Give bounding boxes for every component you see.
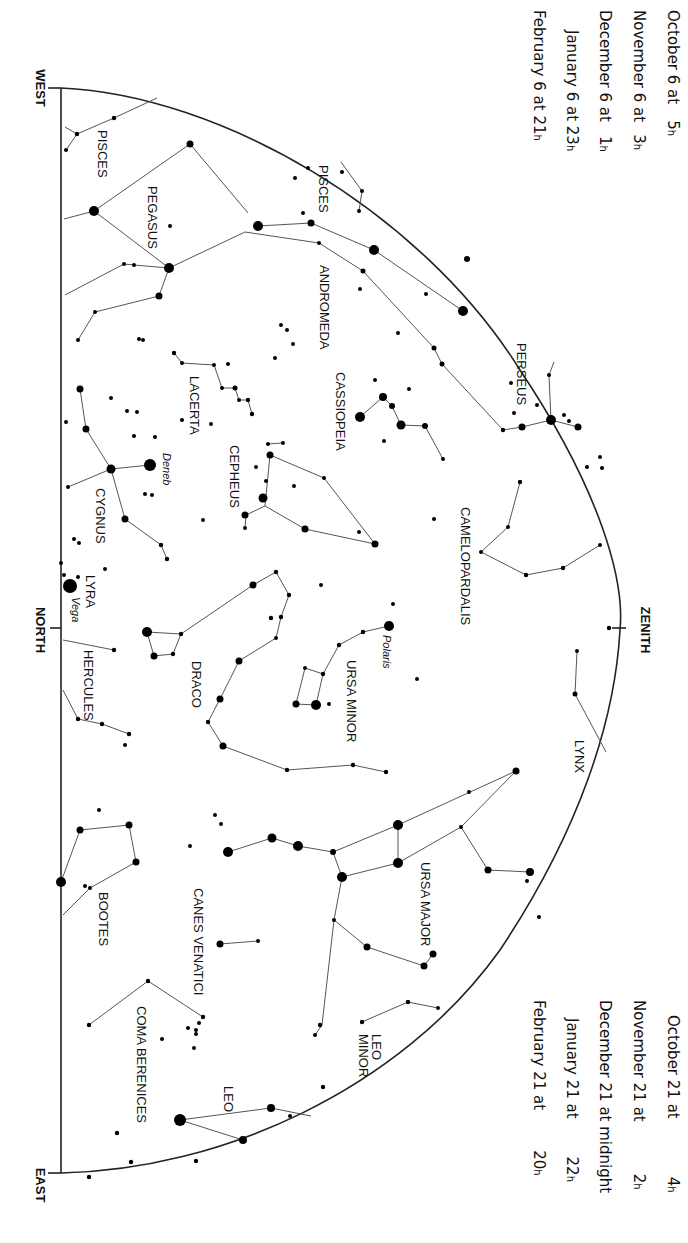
label-polaris: Polaris <box>381 635 393 669</box>
time-table-top: October 6 at5h November 6 at3h December … <box>530 10 682 152</box>
label-leo-minor-2: MINOR <box>356 1034 371 1077</box>
label-cassiopeia: CASSIOPEIA <box>333 372 348 451</box>
constellation-labels: PISCES PEGASUS PISCES ANDROMEDA PERSEUS … <box>81 130 587 1123</box>
label-draco: DRACO <box>189 661 204 708</box>
label-deneb: Deneb <box>161 453 173 485</box>
label-andromeda: ANDROMEDA <box>317 265 332 350</box>
north-label: NORTH <box>33 607 48 653</box>
constellation-lines <box>61 98 606 1140</box>
label-lacerta: LACERTA <box>187 376 202 435</box>
label-lynx: LYNX <box>572 740 587 773</box>
label-cygnus: CYGNUS <box>93 488 108 544</box>
label-lyra: LYRA <box>83 575 98 608</box>
label-camelopardalis: CAMELOPARDALIS <box>458 507 473 626</box>
time-row: December 6 at1h <box>596 10 614 152</box>
time-row: October 6 at5h <box>664 10 682 136</box>
label-ursa-major: URSA MAJOR <box>418 862 433 947</box>
zenith-label: ZENITH <box>638 607 653 654</box>
time-row: December 21 at midnight <box>596 1000 614 1193</box>
time-row: February 21 at20h <box>530 1000 548 1176</box>
label-pegasus: PEGASUS <box>145 186 160 249</box>
east-label: EAST <box>33 1168 48 1203</box>
time-table-bottom: October 21 at4h November 21 at2h Decembe… <box>530 1000 682 1193</box>
label-bootes: BOOTES <box>96 892 111 947</box>
label-ursa-minor: URSA MINOR <box>344 660 359 742</box>
west-label: WEST <box>33 69 48 107</box>
time-row: October 21 at4h <box>664 1015 682 1193</box>
label-canes-venatici: CANES VENATICI <box>191 888 206 995</box>
label-cepheus: CEPHEUS <box>227 445 242 508</box>
label-pisces-west: PISCES <box>95 130 110 178</box>
label-pisces-upper: PISCES <box>316 165 331 213</box>
label-coma-berenices: COMA BERENICES <box>134 1006 149 1123</box>
label-hercules: HERCULES <box>81 650 96 721</box>
label-leo: LEO <box>221 1086 236 1112</box>
time-row: February 6 at 21h <box>530 10 548 141</box>
time-row: January 21 at22h <box>563 1017 581 1182</box>
label-perseus: PERSEUS <box>514 343 529 405</box>
time-row: January 6 at 23h <box>563 29 581 151</box>
time-row: November 6 at3h <box>630 10 648 150</box>
star-chart: WEST NORTH EAST ZENITH October 6 at5h No… <box>0 0 688 1243</box>
label-vega: Vega <box>70 597 82 622</box>
time-row: November 21 at2h <box>630 1000 648 1190</box>
